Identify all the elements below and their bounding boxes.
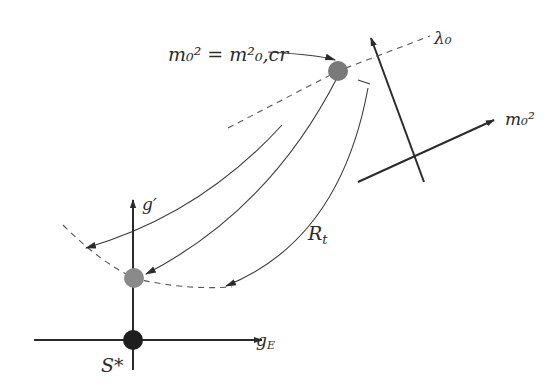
mass-axis <box>358 120 494 182</box>
critical-point-marker <box>328 61 348 81</box>
rg-flow-diagram: m₀² = m²₀,cr λ₀ m₀² g′ gE S* Rt <box>0 0 557 390</box>
flow-curve-upper-branch <box>358 80 370 84</box>
flow-curve-middle <box>146 76 338 274</box>
mass-axis-label: m₀² <box>505 109 535 129</box>
trajectory-main: R <box>307 222 322 244</box>
flow-curve-inner <box>226 88 368 286</box>
g-E-subscript: E <box>266 339 275 352</box>
trajectory-subscript: t <box>322 232 328 247</box>
flow-curve-outer <box>86 125 282 248</box>
renormalized-trajectory-dashed <box>63 225 232 288</box>
g-prime-axis-label: g′ <box>142 194 157 214</box>
bare-coupling-axes <box>358 38 494 182</box>
g-E-main: g <box>256 330 267 350</box>
fixed-point-marker <box>123 330 143 350</box>
g-E-axis-label: gE <box>256 330 275 352</box>
fixed-point-label: S* <box>101 354 124 376</box>
trajectory-label: Rt <box>307 222 328 247</box>
lambda-axis <box>371 38 424 182</box>
lambda-axis-label: λ₀ <box>433 28 452 48</box>
critical-point-label: m₀² = m²₀,cr <box>168 43 290 65</box>
rg-flow-curves <box>86 52 370 286</box>
projected-point-marker <box>124 268 144 288</box>
